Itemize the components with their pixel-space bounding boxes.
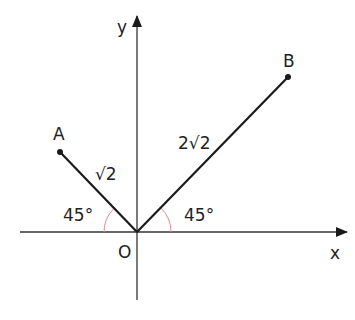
x-axis-label: x [330,243,340,263]
point-b [285,74,291,80]
point-a-label: A [53,124,65,144]
segment-ob-length-label: 2√2 [178,133,210,153]
angle-right-label: 45° [184,205,214,225]
angle-left-label: 45° [63,205,93,225]
origin-label: O [118,242,131,262]
segment-oa-length-label: √2 [95,164,117,184]
angle-arc-left [104,209,114,232]
angle-arc-right [161,208,171,232]
y-axis-label: y [117,17,127,37]
coordinate-diagram: A B O x y √2 2√2 45° 45° [0,0,355,320]
point-b-label: B [283,51,295,71]
point-a [57,149,63,155]
